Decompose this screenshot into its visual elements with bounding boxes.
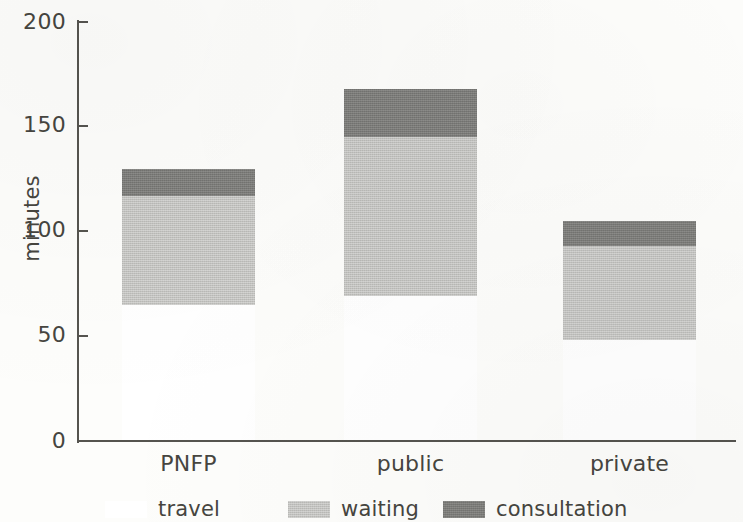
legend-entry-waiting[interactable]: waiting bbox=[288, 496, 419, 522]
y-tick-label-50: 50 bbox=[10, 324, 66, 346]
legend-label-waiting: waiting bbox=[341, 499, 419, 520]
y-tick-label-200: 200 bbox=[10, 11, 66, 33]
y-axis-title: minutes bbox=[22, 159, 43, 279]
y-tick-label-0: 0 bbox=[10, 430, 66, 452]
bar-segment-public-waiting[interactable] bbox=[344, 137, 477, 296]
plot-area bbox=[77, 22, 733, 441]
bar-segment-private-consultation[interactable] bbox=[563, 221, 696, 246]
chart-legend: travel waiting consultation bbox=[0, 496, 743, 522]
bar-segment-pnfp-travel[interactable] bbox=[122, 305, 255, 441]
legend-entry-travel[interactable]: travel bbox=[105, 496, 220, 522]
consultation-swatch bbox=[443, 501, 485, 518]
chart-figure: 200 150 100 50 0 minutes bbox=[0, 0, 743, 522]
y-tick-label-150-wrap: 150 bbox=[0, 114, 66, 136]
bar-segment-private-waiting[interactable] bbox=[563, 246, 696, 340]
bar-group-pnfp[interactable] bbox=[122, 169, 255, 441]
x-category-label-public: public bbox=[344, 452, 477, 476]
bar-segment-public-consultation[interactable] bbox=[344, 89, 477, 137]
y-tick-100 bbox=[77, 230, 88, 232]
x-category-label-pnfp: PNFP bbox=[122, 452, 255, 476]
legend-label-consultation: consultation bbox=[496, 499, 628, 520]
bar-segment-pnfp-consultation[interactable] bbox=[122, 169, 255, 196]
y-tick-label-50-wrap: 50 bbox=[0, 324, 66, 346]
travel-swatch bbox=[105, 501, 147, 518]
x-category-label-private: private bbox=[563, 452, 696, 476]
y-tick-50 bbox=[77, 335, 88, 337]
legend-entry-consultation[interactable]: consultation bbox=[443, 496, 628, 522]
y-tick-label-0-wrap: 0 bbox=[0, 430, 66, 452]
y-tick-label-150: 150 bbox=[10, 114, 66, 136]
bar-group-public[interactable] bbox=[344, 89, 477, 441]
x-axis-line bbox=[77, 440, 736, 442]
waiting-swatch bbox=[288, 501, 330, 518]
bar-segment-private-travel[interactable] bbox=[563, 340, 696, 441]
legend-label-travel: travel bbox=[158, 499, 220, 520]
bar-segment-public-travel[interactable] bbox=[344, 296, 477, 441]
y-tick-label-200-wrap: 200 bbox=[0, 11, 66, 33]
bar-segment-pnfp-waiting[interactable] bbox=[122, 196, 255, 305]
bar-group-private[interactable] bbox=[563, 221, 696, 441]
y-tick-150 bbox=[77, 125, 88, 127]
y-tick-200 bbox=[77, 21, 88, 23]
